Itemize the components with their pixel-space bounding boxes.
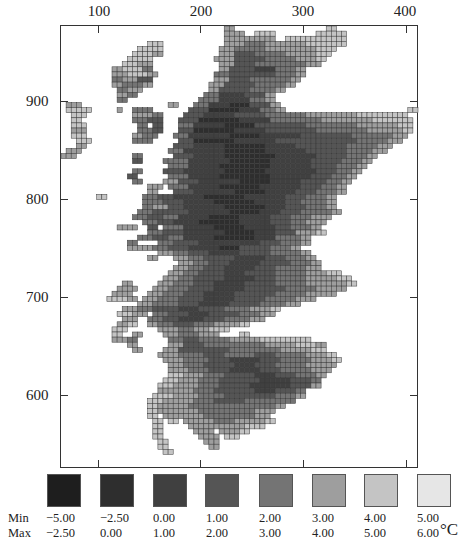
legend-min-value: 1.00 <box>206 511 228 526</box>
legend-min-value: −5.00 <box>46 511 75 526</box>
legend-min-label: Min <box>8 511 29 526</box>
legend-min-value: 3.00 <box>312 511 334 526</box>
legend-max-value: 4.00 <box>312 526 334 541</box>
legend-min-value: 2.00 <box>259 511 281 526</box>
legend-max-value: 6.00 <box>417 526 439 541</box>
legend-max-value: 1.00 <box>153 526 175 541</box>
legend-max-value: 5.00 <box>364 526 386 541</box>
legend-max-value: 2.00 <box>206 526 228 541</box>
legend-swatch-class-7 <box>417 474 451 507</box>
legend-max-value: 3.00 <box>259 526 281 541</box>
legend-swatch-class-5 <box>312 474 346 507</box>
legend-swatch-class-1 <box>100 474 134 507</box>
temperature-map <box>0 0 470 551</box>
legend-swatch-class-3 <box>205 474 239 507</box>
legend-max-value: 0.00 <box>100 526 122 541</box>
legend-swatch-class-4 <box>259 474 293 507</box>
legend-min-value: 4.00 <box>364 511 386 526</box>
legend-unit: °C <box>440 520 458 540</box>
legend-min-value: 0.00 <box>153 511 175 526</box>
legend-min-value: 5.00 <box>417 511 439 526</box>
legend-swatch-class-2 <box>153 474 187 507</box>
legend-min-value: −2.50 <box>100 511 129 526</box>
legend-max-label: Max <box>8 526 31 541</box>
legend-swatch-class-6 <box>364 474 398 507</box>
legend-max-value: −2.50 <box>46 526 75 541</box>
legend-swatch-class-0 <box>47 474 81 507</box>
